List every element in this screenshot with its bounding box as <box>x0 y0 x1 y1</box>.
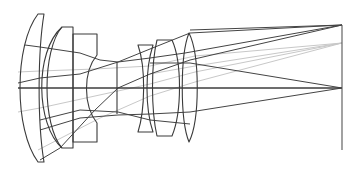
rays-on-axis <box>18 63 342 130</box>
lens-diagram <box>0 0 356 174</box>
rays-full-field <box>18 25 342 160</box>
rays-mid-field <box>18 43 342 150</box>
